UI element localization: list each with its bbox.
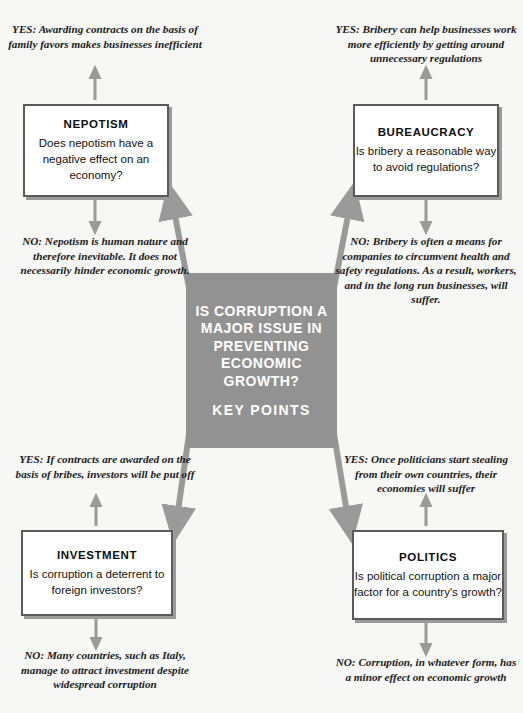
branch-question-investment: Is corruption a deterrent to foreign inv… [23, 566, 171, 598]
branch-title-politics: POLITICS [399, 551, 457, 563]
central-subtitle: KEY POINTS [212, 402, 311, 418]
note-investment-no: NO: Many countries, such as Italy, manag… [8, 648, 202, 692]
branch-box-nepotism[interactable]: NEPOTISM Does nepotism have a negative e… [23, 104, 169, 197]
note-bureaucracy-no: NO: Bribery is often a means for compani… [333, 234, 519, 307]
note-politics-yes: YES: Once politicians start stealing fro… [333, 452, 519, 496]
branch-box-bureaucracy[interactable]: BUREAUCRACY Is bribery a reasonable way … [353, 104, 499, 197]
note-nepotism-no: NO: Nepotism is human nature and therefo… [8, 234, 202, 278]
note-bureaucracy-yes: YES: Bribery can help businesses work mo… [333, 22, 519, 66]
branch-question-nepotism: Does nepotism have a negative effect on … [25, 135, 167, 183]
branch-title-nepotism: NEPOTISM [64, 118, 129, 130]
note-politics-no: NO: Corruption, in whatever form, has a … [333, 655, 519, 684]
branch-title-investment: INVESTMENT [57, 549, 137, 561]
corruption-key-points-diagram: IS CORRUPTION A MAJOR ISSUE IN PREVENTIN… [0, 0, 523, 713]
branch-question-bureaucracy: Is bribery a reasonable way to avoid reg… [355, 143, 497, 175]
note-nepotism-yes: YES: Awarding contracts on the basis of … [8, 22, 202, 51]
branch-box-politics[interactable]: POLITICS Is political corruption a major… [352, 530, 504, 620]
branch-box-investment[interactable]: INVESTMENT Is corruption a deterrent to … [21, 530, 173, 616]
note-investment-yes: YES: If contracts are awarded on the bas… [8, 452, 202, 481]
central-question-box: IS CORRUPTION A MAJOR ISSUE IN PREVENTIN… [186, 273, 337, 448]
branch-question-politics: Is political corruption a major factor f… [354, 568, 502, 600]
central-question-text: IS CORRUPTION A MAJOR ISSUE IN PREVENTIN… [186, 303, 337, 391]
branch-title-bureaucracy: BUREAUCRACY [378, 126, 475, 138]
